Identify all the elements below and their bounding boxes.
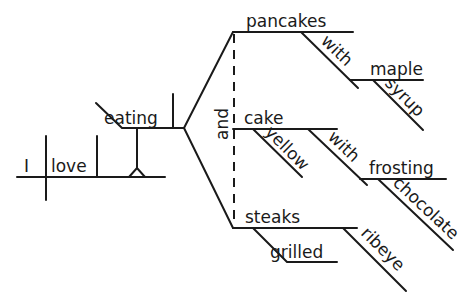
fork-lower — [184, 128, 233, 228]
pedestal-triangle — [129, 168, 145, 177]
word-conjunction: and — [212, 108, 232, 140]
word-pancakes: pancakes — [246, 11, 326, 31]
sentence-diagram: I love eating and pancakes with maple sy… — [0, 0, 474, 304]
word-verb: love — [51, 156, 87, 176]
word-with-2: with — [324, 126, 364, 165]
word-subject: I — [24, 156, 29, 176]
word-steaks: steaks — [245, 207, 300, 227]
word-chocolate: chocolate — [389, 172, 463, 243]
word-grilled: grilled — [270, 242, 323, 262]
word-with-1: with — [317, 30, 357, 69]
diagram-svg: I love eating and pancakes with maple sy… — [0, 0, 474, 304]
word-gerund: eating — [104, 108, 158, 128]
